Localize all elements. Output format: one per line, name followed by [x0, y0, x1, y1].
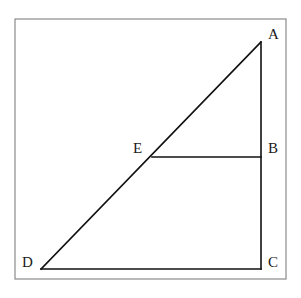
label-b: B — [268, 140, 278, 156]
segment-da — [41, 42, 261, 269]
label-c: C — [268, 254, 278, 270]
label-d: D — [22, 254, 33, 270]
label-e: E — [133, 140, 142, 156]
geometry-diagram: A B C D E — [0, 0, 301, 298]
label-a: A — [268, 26, 279, 42]
